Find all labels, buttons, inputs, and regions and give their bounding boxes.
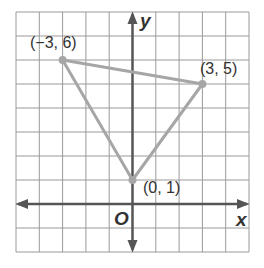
vertex-point (198, 80, 206, 88)
coordinate-plane: x y O (−3, 6) (3, 5) (0, 1) (0, 0, 264, 268)
origin-label: O (114, 208, 129, 229)
x-axis-label: x (235, 209, 248, 230)
point-label-a: (−3, 6) (30, 34, 77, 51)
point-label-b: (3, 5) (200, 60, 237, 77)
y-axis-label: y (139, 10, 152, 31)
point-label-c: (0, 1) (143, 179, 180, 196)
vertex-point (59, 56, 67, 64)
vertex-point (129, 176, 137, 184)
